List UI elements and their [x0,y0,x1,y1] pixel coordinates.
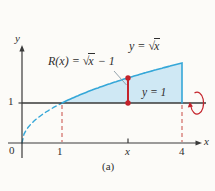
curve-equation-prefix: y = √ [129,39,155,53]
curve-equation-label: y = √x [129,40,160,53]
radius-formula-prefix: R(x) = √ [48,54,89,68]
figure-container: y x 0 1 x 4 1 R(x) = √x − 1 y = √x y = 1… [0,0,215,191]
radius-formula-suffix: − 1 [95,54,115,68]
figure-caption: (a) [102,161,114,173]
curve-equation-radicand: x [154,38,160,53]
x-axis-label: x [204,136,209,148]
x-tick-label-4: 4 [179,146,185,158]
y-axis-label: y [15,33,20,45]
radius-formula-label: R(x) = √x − 1 [48,55,115,68]
radius-bottom-dot [125,100,130,105]
baseline-equation-label: y = 1 [142,86,166,98]
x-tick-label-1: 1 [57,146,63,158]
sqrt-curve-dashed [22,103,62,143]
y-axis-arrow-icon [19,45,24,52]
x-axis-arrow-icon [196,140,203,145]
x-tick-label-0: 0 [9,145,15,157]
radius-top-dot [125,75,130,80]
y-tick-label-1: 1 [8,96,14,108]
x-tick-label-generic: x [125,146,130,158]
